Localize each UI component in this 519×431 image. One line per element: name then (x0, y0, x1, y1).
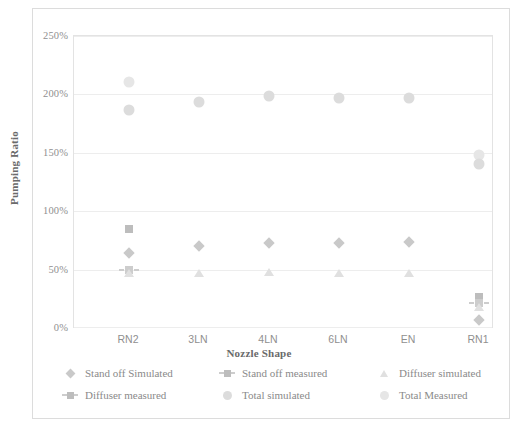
legend-label: Total simulated (242, 389, 310, 401)
data-point-stand-off-simulated (473, 314, 484, 325)
legend-label: Diffuser measured (85, 389, 166, 401)
legend-item-stand-off-measured[interactable]: Stand off measured (219, 367, 327, 379)
gridline (74, 327, 492, 328)
data-point-stand-off-simulated (193, 240, 204, 251)
y-tick-label: 100% (24, 205, 68, 216)
data-point-diffuser-simulated (404, 269, 414, 277)
x-tick-label: RN2 (93, 333, 163, 345)
legend-item-total-measured[interactable]: Total Measured (376, 389, 468, 401)
chart-legend: Stand off Simulated Stand off measured D… (33, 364, 509, 408)
data-point-stand-off-simulated (403, 236, 414, 247)
x-tick-label: 3LN (163, 333, 233, 345)
y-axis-title: Pumping Ratio (8, 131, 20, 205)
data-point-diffuser-simulated (474, 303, 484, 311)
y-tick-label: 200% (24, 88, 68, 99)
data-point-total-simulated (124, 105, 135, 116)
circle-icon (219, 389, 235, 401)
data-point-diffuser-simulated (194, 269, 204, 277)
legend-label: Total Measured (399, 389, 468, 401)
legend-item-total-simulated[interactable]: Total simulated (219, 389, 310, 401)
data-point-diffuser-simulated (334, 269, 344, 277)
data-point-stand-off-simulated (263, 237, 274, 248)
y-tick-label: 50% (24, 264, 68, 275)
data-point-total-simulated (474, 159, 485, 170)
data-point-total-simulated (264, 91, 275, 102)
data-point-total-measured (124, 77, 135, 88)
gridline (74, 36, 492, 37)
data-point-diffuser-simulated (264, 268, 274, 276)
data-point-stand-off-measured (125, 225, 133, 233)
circle-icon (376, 389, 392, 401)
gridline (74, 153, 492, 154)
data-point-stand-off-simulated (123, 247, 134, 258)
legend-item-diffuser-measured[interactable]: Diffuser measured (62, 389, 166, 401)
y-tick-label: 250% (24, 30, 68, 41)
legend-item-stand-off-simulated[interactable]: Stand off Simulated (62, 367, 173, 379)
x-tick-label: EN (373, 333, 443, 345)
x-tick-label: 6LN (303, 333, 373, 345)
legend-label: Stand off Simulated (85, 367, 173, 379)
x-axis-title: Nozzle Shape (226, 347, 291, 359)
square-line-icon (62, 389, 78, 401)
legend-item-diffuser-simulated[interactable]: Diffuser simulated (376, 367, 481, 379)
data-point-total-simulated (404, 93, 415, 104)
diamond-icon (62, 367, 78, 379)
triangle-icon (376, 367, 392, 379)
data-point-total-simulated (194, 97, 205, 108)
data-point-stand-off-simulated (333, 237, 344, 248)
y-tick-label: 150% (24, 147, 68, 158)
gridline (74, 94, 492, 95)
legend-label: Stand off measured (242, 367, 327, 379)
square-line-icon (219, 367, 235, 379)
y-tick-label: 0% (24, 322, 68, 333)
data-point-diffuser-simulated (124, 269, 134, 277)
chart-figure: Pumping Ratio 250% 200% 150% 100% 50% 0% (0, 0, 519, 431)
x-tick-label: RN1 (443, 333, 513, 345)
plot-area (73, 35, 493, 328)
legend-label: Diffuser simulated (399, 367, 481, 379)
gridline (74, 211, 492, 212)
x-tick-label: 4LN (233, 333, 303, 345)
data-point-total-simulated (334, 93, 345, 104)
